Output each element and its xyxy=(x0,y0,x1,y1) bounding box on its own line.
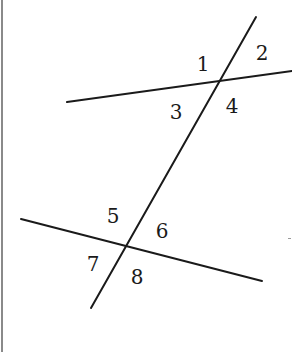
angle-label-1: 1 xyxy=(197,54,210,74)
diagram-canvas: 1 2 3 4 5 6 7 8 xyxy=(0,0,292,352)
angle-label-4: 4 xyxy=(226,96,239,116)
angle-label-2: 2 xyxy=(256,43,269,63)
upper-line xyxy=(67,71,292,102)
transversal-line xyxy=(91,17,256,308)
angle-label-6: 6 xyxy=(156,221,169,241)
angle-label-5: 5 xyxy=(107,206,120,226)
stray-mark xyxy=(288,238,291,239)
parallel-lines-transversal-figure xyxy=(0,0,292,352)
angle-label-8: 8 xyxy=(131,267,144,287)
angle-label-7: 7 xyxy=(87,254,100,274)
angle-label-3: 3 xyxy=(170,102,183,122)
